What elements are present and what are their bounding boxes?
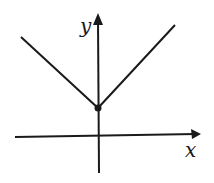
vertex-point: [95, 105, 102, 112]
y-arrow-icon: [93, 13, 103, 25]
y-axis-label: y: [79, 14, 92, 38]
y-axis: [93, 13, 103, 173]
graph-canvas: y x: [0, 0, 214, 183]
x-axis: [15, 129, 201, 139]
function-graph: y x: [0, 0, 214, 183]
x-axis-label: x: [185, 138, 196, 162]
